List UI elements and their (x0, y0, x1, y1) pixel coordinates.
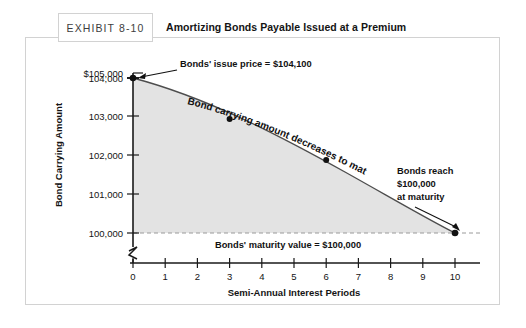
y-tick-label-101000: 101,000 (89, 189, 123, 200)
y-axis-title: Bond Carrying Amount (53, 102, 64, 207)
y-tick-label-103000: 103,000 (89, 111, 123, 122)
issue-price-annotation: Bonds' issue price = $104,100 (180, 59, 312, 69)
y-tick-label-102000: 102,000 (89, 150, 123, 161)
bond-premium-amortization-chart: $105,000 104,000 103,000 102,000 101,000… (25, 37, 500, 305)
y-tick-label-100000: 100,000 (89, 228, 123, 239)
exhibit-title: Amortizing Bonds Payable Issued at a Pre… (166, 21, 406, 33)
data-point-period-0 (130, 75, 137, 82)
x-tick-label-3: 3 (227, 271, 232, 282)
x-tick-label-9: 9 (420, 271, 425, 282)
issue-price-leader-line (141, 70, 177, 77)
exhibit-page: EXHIBIT 8-10 Amortizing Bonds Payable Is… (0, 0, 526, 328)
carrying-amount-area (133, 78, 455, 233)
y-tick-label-104000: 104,000 (89, 73, 123, 84)
x-tick-label-0: 0 (130, 271, 135, 282)
x-tick-label-10: 10 (450, 271, 461, 282)
x-tick-label-5: 5 (291, 271, 296, 282)
x-tick-label-1: 1 (163, 271, 168, 282)
maturity-value-label: Bonds' maturity value = $100,000 (215, 240, 361, 250)
x-tick-label-8: 8 (388, 271, 393, 282)
maturity-note-arrow-head (452, 223, 460, 231)
maturity-note-line-1: Bonds reach (397, 166, 454, 176)
x-tick-label-7: 7 (356, 271, 361, 282)
y-axis-break-icon (129, 247, 137, 259)
exhibit-tag-label: EXHIBIT 8-10 (67, 22, 145, 34)
exhibit-tag: EXHIBIT 8-10 (58, 13, 153, 42)
x-tick-label-4: 4 (259, 271, 264, 282)
x-axis-title: Semi-Annual Interest Periods (228, 287, 361, 298)
maturity-note-line-3: at maturity (397, 192, 445, 202)
x-tick-label-6: 6 (324, 271, 329, 282)
data-point-period-10 (452, 230, 459, 237)
maturity-note-line-2: $100,000 (397, 179, 436, 189)
x-tick-label-2: 2 (195, 271, 200, 282)
issue-price-arrow-head (138, 73, 146, 79)
